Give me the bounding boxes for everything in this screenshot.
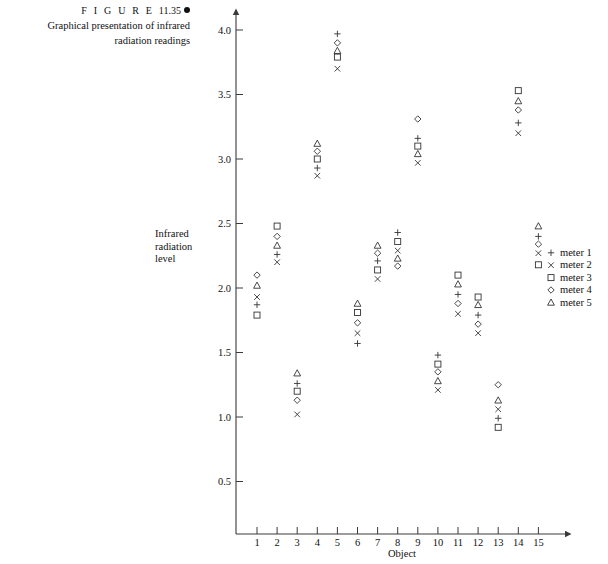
data-point (274, 259, 280, 265)
y-tick-label: 2.5 (218, 218, 231, 229)
data-point (415, 116, 421, 122)
data-point (354, 300, 361, 306)
data-point (435, 361, 441, 367)
legend-marker-square (548, 275, 554, 281)
data-point (274, 242, 281, 248)
data-point (314, 140, 321, 146)
x-tick-label: 7 (375, 537, 380, 548)
data-point (455, 300, 461, 306)
x-tick-label: 10 (433, 537, 444, 548)
legend-marker-cross (548, 262, 554, 268)
legend-marker-diamond (548, 287, 554, 293)
data-point (435, 377, 442, 383)
data-point (375, 276, 381, 282)
data-point (535, 262, 541, 268)
data-point (515, 88, 521, 94)
data-point-group (254, 31, 542, 431)
data-point (314, 156, 320, 162)
data-point (314, 148, 320, 154)
data-point (314, 165, 320, 171)
data-point (394, 255, 401, 261)
data-point (254, 302, 260, 308)
data-point (435, 352, 441, 358)
scatter-plot: 0.51.01.52.02.53.03.54.0 123456789101112… (0, 0, 608, 564)
data-point (415, 160, 421, 166)
data-point (374, 242, 381, 248)
y-tick-label: 3.0 (218, 154, 231, 165)
x-tick-label: 4 (315, 537, 321, 548)
data-point (475, 330, 481, 336)
data-point (516, 130, 522, 136)
x-tick-label: 12 (473, 537, 484, 548)
y-tick-label: 3.5 (218, 89, 231, 100)
data-point (395, 248, 401, 254)
data-point (415, 143, 421, 149)
data-point (495, 406, 501, 412)
x-tick-label: 2 (274, 537, 279, 548)
data-point (395, 263, 401, 269)
data-point (435, 387, 441, 393)
data-point (475, 312, 481, 318)
data-point (294, 388, 300, 394)
data-point (274, 223, 280, 229)
data-point (274, 233, 280, 239)
data-point (495, 415, 501, 421)
x-tick-label: 5 (335, 537, 340, 548)
data-point (515, 107, 521, 113)
legend-label: meter 3 (560, 272, 592, 283)
x-tick-label: 11 (453, 537, 463, 548)
data-point (535, 233, 541, 239)
data-point (354, 320, 360, 326)
data-point (315, 173, 321, 179)
data-point (535, 241, 541, 247)
data-point (475, 321, 481, 327)
legend-label: meter 4 (560, 284, 593, 295)
data-point (495, 397, 502, 403)
data-point (455, 272, 461, 278)
data-point (294, 380, 300, 386)
data-point (334, 31, 340, 37)
data-point (334, 40, 340, 46)
data-point (475, 294, 481, 300)
legend-label: meter 5 (560, 297, 592, 308)
data-point (274, 251, 280, 257)
data-point (455, 311, 461, 317)
x-axis-label: Object (388, 548, 416, 559)
x-tick-label: 3 (295, 537, 300, 548)
data-point (435, 369, 441, 375)
legend-label: meter 1 (560, 247, 592, 258)
data-point (355, 330, 361, 336)
y-tick-group: 0.51.01.52.02.53.03.54.0 (218, 25, 243, 488)
data-point (475, 301, 482, 307)
data-point (334, 54, 340, 60)
y-tick-label: 4.0 (218, 25, 231, 36)
legend: meter 1meter 2meter 3meter 4meter 5 (548, 247, 593, 308)
data-point (536, 250, 542, 256)
x-tick-label: 13 (493, 537, 504, 548)
data-point (294, 397, 300, 403)
data-point (354, 340, 360, 346)
x-tick-label: 14 (513, 537, 524, 548)
x-tick-label: 15 (533, 537, 544, 548)
y-tick-label: 1.5 (218, 347, 231, 358)
legend-label: meter 2 (560, 259, 592, 270)
legend-marker-triangle (548, 299, 555, 305)
y-tick-label: 1.0 (218, 412, 231, 423)
data-point (495, 424, 501, 430)
data-point (515, 98, 522, 104)
data-point (414, 150, 421, 156)
data-point (455, 291, 461, 297)
data-point (335, 66, 341, 72)
data-point (254, 282, 261, 288)
data-point (395, 239, 401, 245)
data-point (254, 294, 260, 300)
data-point (375, 267, 381, 273)
data-point (254, 272, 260, 278)
data-point (294, 412, 300, 418)
data-point (334, 47, 341, 53)
data-point (395, 229, 401, 235)
x-tick-label: 9 (415, 537, 420, 548)
data-point (254, 312, 260, 318)
y-tick-label: 2.0 (218, 283, 231, 294)
data-point (455, 281, 462, 287)
